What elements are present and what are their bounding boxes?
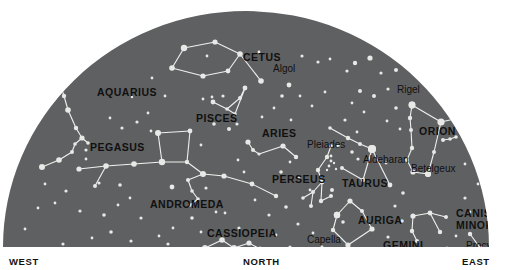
star-gemini — [438, 230, 442, 234]
star-aldebaran — [368, 145, 376, 153]
field-star — [316, 60, 319, 63]
star-cassiopeia — [231, 245, 237, 251]
constellation-label-aquarius: AQUARIUS — [97, 86, 157, 98]
field-star — [117, 204, 120, 207]
field-star — [147, 112, 150, 115]
star-andromeda — [274, 194, 278, 198]
field-star — [97, 181, 100, 184]
star-cetus — [200, 73, 205, 78]
star-andromeda — [170, 185, 175, 190]
star-aquarius — [73, 142, 77, 146]
star-gemini — [444, 215, 448, 219]
star-pegasus — [118, 183, 122, 187]
star-label-procyon: Procyon — [466, 240, 503, 251]
star-label-betelgeux: Betelgeux — [411, 163, 455, 174]
compass-label-north: NORTH — [243, 256, 280, 267]
field-star — [321, 246, 324, 249]
star-label-pleiades: Pleiades — [307, 139, 345, 150]
field-star — [372, 94, 376, 98]
star-pegasus — [185, 160, 189, 164]
star-gemini — [428, 211, 433, 216]
field-star — [149, 249, 152, 252]
star-aquarius — [84, 148, 87, 151]
field-star — [288, 245, 291, 248]
field-star — [446, 247, 449, 250]
constellation-label-canis-minor-line1: CANIS — [456, 207, 491, 219]
constellation-label-auriga: AURIGA — [358, 214, 402, 226]
star-aquarius — [74, 126, 78, 130]
field-star — [158, 235, 161, 238]
field-star — [172, 227, 175, 230]
constellation-label-canis-minor-line2: MINOR — [456, 219, 494, 231]
star-auriga — [374, 248, 378, 252]
constellation-label-cetus: CETUS — [243, 51, 281, 63]
star-cassiopeia — [202, 245, 208, 251]
field-star — [200, 231, 203, 234]
field-star — [280, 94, 284, 98]
star-aries — [251, 148, 255, 152]
field-star — [91, 237, 94, 240]
field-star — [64, 189, 67, 192]
field-star — [44, 183, 47, 186]
field-star — [300, 54, 303, 57]
field-star — [455, 235, 458, 238]
field-star — [24, 228, 27, 231]
star-algol — [287, 83, 292, 88]
field-star — [254, 199, 257, 202]
compass-label-east: EAST — [462, 256, 490, 267]
field-star — [54, 202, 57, 205]
star-gemini — [410, 229, 414, 233]
star-pegasus — [159, 159, 165, 165]
field-star — [477, 183, 480, 186]
star-andromeda — [221, 173, 226, 178]
compass-label-west: WEST — [9, 256, 39, 267]
field-star — [379, 71, 382, 74]
star-perseus — [325, 155, 329, 159]
star-orion — [394, 106, 398, 110]
field-star — [432, 250, 435, 253]
field-star — [353, 61, 357, 65]
star-auriga — [347, 198, 352, 203]
star-aquarius — [39, 164, 45, 170]
constellation-label-aries: ARIES — [262, 127, 297, 139]
star-orion — [432, 150, 436, 154]
star-cetus — [212, 39, 217, 44]
star-orion — [408, 116, 412, 120]
star-pegasus — [103, 163, 109, 169]
field-star — [299, 95, 302, 98]
star-label-capella: Capella — [307, 234, 341, 245]
star-taurus — [328, 126, 332, 130]
star-andromeda — [186, 178, 190, 182]
field-star — [351, 102, 354, 105]
field-star — [324, 91, 327, 94]
field-star — [120, 126, 123, 129]
constellation-label-orion: ORION — [419, 125, 456, 137]
star-perseus — [301, 196, 305, 200]
star-orion — [441, 138, 445, 142]
star-auriga — [360, 209, 364, 213]
field-star — [464, 163, 467, 166]
star-rigel — [409, 102, 416, 109]
field-star — [309, 189, 312, 192]
star-taurus — [356, 157, 359, 160]
constellation-label-gemini: GEMINI — [383, 239, 423, 251]
field-star — [85, 158, 88, 161]
star-taurus — [330, 188, 334, 192]
star-cetus — [237, 51, 243, 57]
star-aries — [294, 155, 298, 159]
field-star — [224, 212, 227, 215]
field-star — [206, 55, 209, 58]
field-star — [129, 197, 132, 200]
star-cassiopeia — [246, 240, 251, 245]
star-cetus — [169, 65, 175, 71]
field-star — [61, 242, 64, 245]
star-pisces — [227, 127, 231, 131]
star-canis-minor — [468, 232, 472, 236]
field-star — [345, 69, 348, 72]
field-star — [329, 58, 332, 61]
star-aquarius — [79, 135, 84, 140]
field-star — [261, 116, 264, 119]
field-star — [311, 105, 314, 108]
star-cetus — [258, 78, 264, 84]
star-pegasus — [188, 129, 193, 134]
